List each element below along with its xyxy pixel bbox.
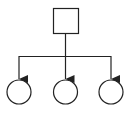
child-node-circle-3: [99, 80, 123, 104]
child-node-circle-1: [7, 80, 31, 104]
diagram-layer: [7, 9, 123, 105]
child-node-circle-2: [54, 80, 78, 104]
root-node-square: [54, 9, 79, 34]
tree-diagram: [0, 0, 131, 124]
